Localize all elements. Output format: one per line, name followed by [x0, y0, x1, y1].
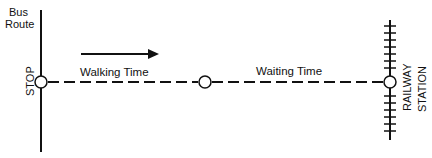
arrowhead-icon — [148, 49, 159, 59]
railway-label: RAILWAY — [401, 63, 413, 111]
access-time-diagram: Bus Route STOP Walking Time Waiting Time… — [0, 0, 432, 158]
stop-label: STOP — [24, 66, 36, 96]
station-label: STATION — [416, 66, 428, 112]
station-node — [384, 76, 396, 88]
stop-node — [35, 76, 47, 88]
intermediate-node — [199, 76, 211, 88]
bus-route-label-1: Bus — [9, 6, 28, 18]
waiting-time-label: Waiting Time — [256, 65, 322, 77]
bus-route-label-2: Route — [5, 18, 34, 30]
walking-time-label: Walking Time — [80, 66, 149, 78]
